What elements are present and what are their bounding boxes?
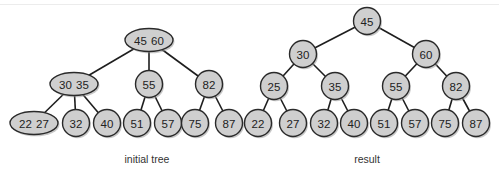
tree-node: 3035 <box>50 73 100 98</box>
result-tree-nodes: 453060253555822227324051577587 <box>245 8 492 139</box>
tree-node: 55 <box>136 71 165 100</box>
two-key-node-shape <box>10 112 58 135</box>
tree-node: 35 <box>322 73 351 102</box>
two-key-node-shape <box>50 73 98 96</box>
tree-node: 45 <box>354 8 383 37</box>
node-key: 30 <box>297 49 310 61</box>
result-tree-caption: result <box>354 153 380 165</box>
node-key: 32 <box>318 118 331 130</box>
node-key: 51 <box>378 118 391 130</box>
node-key: 60 <box>420 49 433 61</box>
tree-node: 2227 <box>10 112 60 137</box>
initial-tree-nodes: 4560303555822227324051577587 <box>10 29 244 139</box>
initial-tree-caption: initial tree <box>125 153 170 165</box>
tree-node: 25 <box>261 73 290 102</box>
node-key: 40 <box>101 118 114 130</box>
tree-node: 75 <box>182 110 211 139</box>
tree-node: 32 <box>311 110 340 139</box>
node-key: 45 <box>361 16 374 28</box>
tree-node: 40 <box>341 110 370 139</box>
node-key: 60 <box>151 35 164 47</box>
tree-diagram-canvas: 4560303555822227324051577587453060253555… <box>0 0 499 175</box>
tree-node: 75 <box>432 110 461 139</box>
node-key: 55 <box>143 79 156 91</box>
node-key: 51 <box>131 118 144 130</box>
node-key: 40 <box>348 118 361 130</box>
node-key: 55 <box>390 81 403 93</box>
node-key: 35 <box>329 81 342 93</box>
tree-node: 22 <box>245 110 274 139</box>
node-key: 25 <box>268 81 281 93</box>
tree-node: 87 <box>216 110 245 139</box>
node-key: 75 <box>439 118 452 130</box>
two-key-node-shape <box>125 29 173 52</box>
node-key: 75 <box>189 118 202 130</box>
node-key: 27 <box>36 118 49 130</box>
node-key: 45 <box>134 35 147 47</box>
tree-node: 87 <box>463 110 492 139</box>
tree-node: 57 <box>155 110 184 139</box>
tree-node: 51 <box>124 110 153 139</box>
tree-node: 57 <box>402 110 431 139</box>
tree-node: 51 <box>371 110 400 139</box>
node-key: 32 <box>70 118 83 130</box>
node-key: 35 <box>76 79 89 91</box>
node-key: 22 <box>252 118 265 130</box>
node-key: 30 <box>59 79 72 91</box>
node-key: 87 <box>223 118 236 130</box>
node-key: 22 <box>19 118 32 130</box>
tree-node: 40 <box>94 110 123 139</box>
edges-layer <box>34 21 476 123</box>
tree-node: 27 <box>280 110 309 139</box>
node-key: 82 <box>450 81 463 93</box>
node-key: 57 <box>409 118 422 130</box>
nodes-layer: 4560303555822227324051577587453060253555… <box>10 8 491 139</box>
node-key: 87 <box>470 118 483 130</box>
captions-layer: initial treeresult <box>125 153 380 165</box>
tree-node: 82 <box>196 71 225 100</box>
node-key: 82 <box>203 79 216 91</box>
tree-node: 82 <box>443 73 472 102</box>
tree-node: 32 <box>63 110 92 139</box>
node-key: 57 <box>162 118 175 130</box>
tree-node: 55 <box>383 73 412 102</box>
result-tree-edges <box>258 21 476 123</box>
node-key: 27 <box>287 118 300 130</box>
